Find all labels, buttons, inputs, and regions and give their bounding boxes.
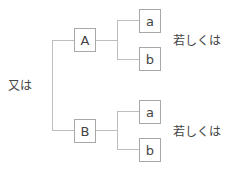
A-connector-label: 若しくは xyxy=(173,34,221,48)
node-A-child-b: b xyxy=(139,47,161,71)
node-B: B xyxy=(74,119,96,143)
node-A-child-a: a xyxy=(139,9,161,33)
node-B-child-a: a xyxy=(139,100,161,124)
node-A-child-a-label: a xyxy=(146,14,154,29)
root-label-or: 又は xyxy=(8,79,32,93)
node-B-child-a-label: a xyxy=(146,105,154,120)
node-B-child-b: b xyxy=(139,138,161,162)
node-B-child-b-label: b xyxy=(146,143,154,158)
B-to-b-line xyxy=(117,149,139,150)
node-A-label: A xyxy=(81,33,90,48)
A-to-branch-line xyxy=(96,40,117,41)
A-to-a-line xyxy=(117,20,139,21)
trunk-to-B-line xyxy=(52,130,74,131)
node-A: A xyxy=(74,28,96,52)
B-connector-label: 若しくは xyxy=(173,125,221,139)
B-to-a-line xyxy=(117,111,139,112)
A-to-b-line xyxy=(117,59,139,60)
trunk-vertical-line xyxy=(52,40,53,131)
node-A-child-b-label: b xyxy=(146,52,154,67)
node-B-label: B xyxy=(81,124,90,139)
B-to-branch-line xyxy=(96,130,117,131)
A-branch-vertical-line xyxy=(117,20,118,60)
trunk-to-A-line xyxy=(52,40,74,41)
B-branch-vertical-line xyxy=(117,111,118,150)
